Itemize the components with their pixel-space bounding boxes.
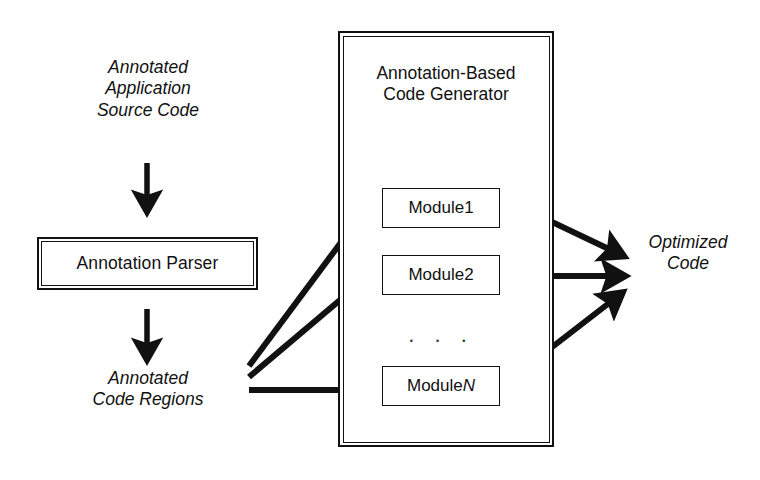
module-box-1[interactable]: Module 1 bbox=[382, 188, 500, 228]
annotated-application-source-code-label: Annotated Application Source Code bbox=[62, 57, 234, 121]
module-box-n[interactable]: Module N bbox=[382, 366, 500, 406]
module-2-label-suffix: 2 bbox=[464, 265, 473, 285]
annotation-parser-label: Annotation Parser bbox=[77, 253, 219, 274]
generator-panel-title: Annotation-Based Code Generator bbox=[345, 63, 547, 106]
annotation-parser-box[interactable]: Annotation Parser bbox=[37, 237, 258, 290]
module-n-label-prefix: Module bbox=[407, 376, 463, 396]
annotated-code-regions-label: Annotated Code Regions bbox=[62, 368, 234, 411]
modules-ellipsis: . . . bbox=[400, 322, 482, 348]
module-2-label-prefix: Module bbox=[408, 265, 464, 285]
optimized-code-label: Optimized Code bbox=[622, 232, 754, 275]
module-n-label-suffix: N bbox=[463, 376, 475, 396]
module-box-2[interactable]: Module 2 bbox=[382, 255, 500, 295]
annotation-parser-box-inner: Annotation Parser bbox=[41, 241, 254, 286]
module-1-label-prefix: Module bbox=[408, 198, 464, 218]
module-1-label-suffix: 1 bbox=[464, 198, 473, 218]
diagram-canvas: Annotated Application Source Code Annota… bbox=[0, 0, 760, 480]
